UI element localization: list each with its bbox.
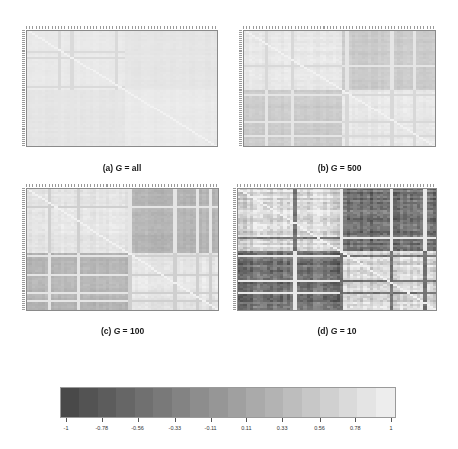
colorbar-tick-label: 0.78 (350, 425, 361, 431)
heatmap-c-canvas (26, 188, 219, 311)
heatmap-d-top-ticks (237, 184, 437, 187)
heatmap-c-left-ticks (22, 188, 25, 311)
caption-d-prefix: (d) (318, 326, 331, 336)
colorbar-tick (246, 418, 247, 422)
heatmap-b-canvas (243, 30, 436, 147)
caption-a: (a) G = all (26, 163, 218, 173)
colorbar-tick (391, 418, 392, 422)
colorbar-tick (102, 418, 103, 422)
caption-c-suffix: = 100 (120, 326, 144, 336)
caption-d-suffix: = 10 (337, 326, 356, 336)
colorbar-tick (211, 418, 212, 422)
heatmap-d-canvas (237, 188, 437, 311)
colorbar (60, 387, 396, 418)
colorbar-tick-label: -0.33 (169, 425, 182, 431)
colorbar-tick (282, 418, 283, 422)
colorbar-tick-label: -0.11 (205, 425, 217, 431)
colorbar-tick-label: 0.11 (241, 425, 251, 431)
colorbar-tick (320, 418, 321, 422)
colorbar-tick (175, 418, 176, 422)
caption-a-suffix: = all (122, 163, 141, 173)
colorbar-tick-label: -0.56 (131, 425, 144, 431)
caption-c: (c) G = 100 (26, 326, 219, 336)
colorbar-tick-label: -1 (64, 425, 69, 431)
heatmap-d-left-ticks (233, 188, 236, 311)
heatmap-a-left-ticks (22, 30, 25, 147)
colorbar-tick (138, 418, 139, 422)
colorbar-tick-label: 0.33 (277, 425, 288, 431)
colorbar-canvas (61, 388, 395, 417)
heatmap-a-top-ticks (26, 26, 218, 29)
caption-b-prefix: (b) (318, 163, 331, 173)
heatmap-b-top-ticks (243, 26, 436, 29)
colorbar-tick-label: 1 (389, 425, 392, 431)
caption-c-prefix: (c) (101, 326, 114, 336)
colorbar-tick-label: 0.56 (314, 425, 325, 431)
heatmap-a-canvas (26, 30, 218, 147)
heatmap-b-left-ticks (239, 30, 242, 147)
heatmap-c-top-ticks (26, 184, 219, 187)
colorbar-tick-label: -0.78 (95, 425, 108, 431)
caption-b-suffix: = 500 (337, 163, 361, 173)
caption-a-prefix: (a) (103, 163, 116, 173)
caption-b: (b) G = 500 (243, 163, 436, 173)
colorbar-tick (355, 418, 356, 422)
colorbar-tick (66, 418, 67, 422)
caption-d: (d) G = 10 (237, 326, 437, 336)
